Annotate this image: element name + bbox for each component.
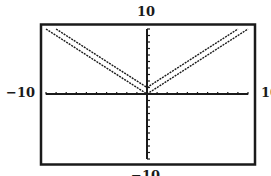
ymin-label: −10 — [131, 169, 160, 176]
ymax-label: 10 — [137, 5, 155, 18]
xmax-label: 10 — [261, 86, 271, 99]
graph-window — [0, 0, 271, 176]
xmin-label: −10 — [6, 86, 35, 99]
